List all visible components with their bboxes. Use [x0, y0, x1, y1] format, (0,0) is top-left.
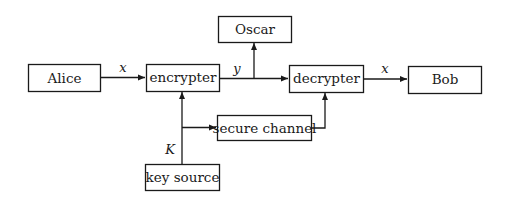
node-label: secure channel	[213, 120, 317, 136]
node-bob: Bob	[409, 67, 482, 94]
edge-keysource-encrypter: K	[164, 92, 182, 164]
node-secure-channel: secure channel	[213, 116, 317, 141]
edge-label-y: y	[232, 61, 241, 76]
node-alice: Alice	[29, 65, 101, 92]
node-label: Bob	[432, 71, 459, 87]
edge-decrypter-bob: x	[363, 61, 407, 79]
node-oscar: Oscar	[219, 17, 292, 43]
edge-label-x: x	[381, 61, 389, 76]
cryptosystem-diagram: x y x K Alice encrypter Oscar decrypter	[0, 0, 505, 205]
node-label: Oscar	[235, 21, 276, 37]
node-decrypter: decrypter	[290, 66, 364, 93]
edge-alice-encrypter: x	[100, 60, 145, 78]
node-key-source: key source	[146, 165, 220, 191]
node-label: decrypter	[293, 70, 360, 86]
node-encrypter: encrypter	[147, 65, 220, 92]
node-label: encrypter	[150, 69, 217, 85]
edge-label-x: x	[119, 60, 127, 75]
node-label: Alice	[47, 70, 82, 86]
node-label: key source	[146, 169, 220, 185]
edge-label-k: K	[164, 142, 176, 157]
